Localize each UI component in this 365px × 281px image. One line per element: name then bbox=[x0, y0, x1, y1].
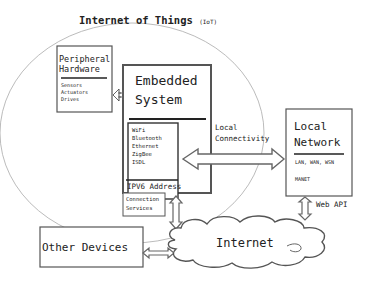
diagram-title: Internet of Things (IoT) bbox=[79, 15, 217, 26]
local-network-title-1: Local bbox=[294, 121, 327, 132]
peripheral-item: Actuators bbox=[61, 90, 88, 95]
embedded-title-1: Embedded bbox=[135, 74, 198, 87]
local-network-item: MANET bbox=[295, 177, 310, 182]
protocol-item: ZigBee bbox=[132, 152, 152, 158]
title-main: Internet of Things bbox=[79, 14, 193, 26]
connection-services-2: Services bbox=[126, 206, 153, 212]
protocol-item: WiFi bbox=[132, 128, 145, 134]
peripheral-item: Sensors bbox=[61, 83, 82, 88]
local-network-item: LAN, WAN, WSN bbox=[295, 160, 334, 165]
protocol-item: Ethernet bbox=[132, 144, 159, 150]
peripheral-title-2: Hardware bbox=[59, 65, 100, 74]
web-api-arrow bbox=[299, 197, 311, 220]
local-connectivity-arrow bbox=[183, 149, 284, 169]
other-devices-arrow bbox=[143, 248, 174, 258]
internet-link-arrow bbox=[170, 196, 182, 229]
connection-services-1: Connection bbox=[126, 197, 159, 203]
other-devices-label: Other Devices bbox=[42, 242, 128, 253]
local-connectivity-2: Connectivity bbox=[215, 135, 269, 143]
embedded-title-2: System bbox=[135, 93, 182, 106]
title-sub: (IoT) bbox=[199, 18, 217, 25]
local-connectivity-1: Local bbox=[215, 124, 238, 132]
peripheral-title-1: Peripheral bbox=[59, 55, 110, 64]
web-api-label: Web API bbox=[316, 201, 348, 209]
protocol-item: ISDL bbox=[132, 160, 145, 166]
internet-label: Internet bbox=[216, 237, 274, 249]
peripheral-item: Drives bbox=[61, 97, 79, 102]
protocol-item: Bluetooth bbox=[132, 136, 162, 142]
local-network-title-2: Network bbox=[294, 137, 340, 148]
ipv6-address-label: IPV6 Address bbox=[127, 183, 181, 191]
